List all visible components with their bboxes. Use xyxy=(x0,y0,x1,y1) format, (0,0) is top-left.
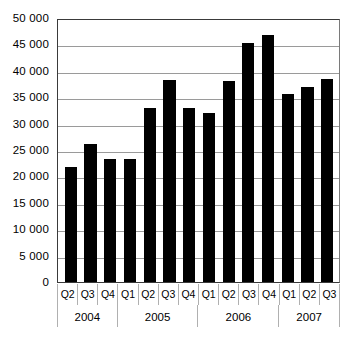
quarter-label: Q3 xyxy=(159,284,179,305)
bar-slot xyxy=(317,20,337,282)
year-label: 2006 xyxy=(198,305,279,328)
bar xyxy=(203,113,215,282)
bar-slot xyxy=(298,20,318,282)
bar xyxy=(104,159,116,282)
bar-slot xyxy=(199,20,219,282)
bar-slot xyxy=(81,20,101,282)
bar-slot xyxy=(219,20,239,282)
bar-slot xyxy=(258,20,278,282)
y-tick-label: 45 000 xyxy=(13,40,49,52)
bar-series xyxy=(58,20,339,282)
bar-slot xyxy=(120,20,140,282)
bar-slot xyxy=(179,20,199,282)
year-label: 2004 xyxy=(57,305,118,328)
bar xyxy=(124,159,136,282)
bar-slot xyxy=(160,20,180,282)
quarter-label: Q4 xyxy=(179,284,199,305)
y-tick-label: 30 000 xyxy=(13,119,49,131)
y-tick-label: 5 000 xyxy=(19,251,49,263)
quarter-label: Q2 xyxy=(139,284,159,305)
y-tick-label: 25 000 xyxy=(13,145,49,157)
y-axis: 50 00045 00040 00035 00030 00025 00020 0… xyxy=(0,0,53,300)
year-label: 2007 xyxy=(279,305,340,328)
quarter-label: Q2 xyxy=(219,284,239,305)
quarter-label: Q4 xyxy=(98,284,118,305)
bar xyxy=(163,80,175,282)
bar-slot xyxy=(278,20,298,282)
quarter-label: Q1 xyxy=(199,284,219,305)
bar xyxy=(301,87,313,282)
y-tick-label: 50 000 xyxy=(13,13,49,25)
quarter-label: Q3 xyxy=(78,284,98,305)
y-tick-label: 20 000 xyxy=(13,172,49,184)
quarter-label: Q2 xyxy=(300,284,320,305)
quarter-label: Q3 xyxy=(320,284,340,305)
bar xyxy=(65,167,77,282)
quarter-label: Q1 xyxy=(118,284,138,305)
bar-chart: 50 00045 00040 00035 00030 00025 00020 0… xyxy=(0,0,356,344)
bar-slot xyxy=(61,20,81,282)
bar-slot xyxy=(140,20,160,282)
year-label: 2005 xyxy=(118,305,199,328)
y-tick-label: 0 xyxy=(42,277,49,289)
bar-slot xyxy=(100,20,120,282)
bar xyxy=(282,94,294,282)
quarter-label: Q4 xyxy=(259,284,279,305)
bar xyxy=(144,108,156,282)
y-tick-label: 15 000 xyxy=(13,198,49,210)
bar xyxy=(321,79,333,282)
quarter-label: Q2 xyxy=(57,284,78,305)
year-label-row: 2004200520062007 xyxy=(57,305,340,328)
bar xyxy=(262,35,274,282)
bar-slot xyxy=(238,20,258,282)
bar xyxy=(183,108,195,282)
plot-area xyxy=(57,19,340,283)
y-tick-label: 10 000 xyxy=(13,224,49,236)
quarter-label-row: Q2Q3Q4Q1Q2Q3Q4Q1Q2Q3Q4Q1Q2Q3 xyxy=(57,284,340,305)
y-tick-label: 35 000 xyxy=(13,92,49,104)
x-axis: Q2Q3Q4Q1Q2Q3Q4Q1Q2Q3Q4Q1Q2Q3 20042005200… xyxy=(57,284,340,327)
quarter-label: Q3 xyxy=(239,284,259,305)
y-tick-label: 40 000 xyxy=(13,66,49,78)
bar xyxy=(84,144,96,282)
quarter-label: Q1 xyxy=(280,284,300,305)
bar xyxy=(242,43,254,282)
bar xyxy=(223,81,235,282)
